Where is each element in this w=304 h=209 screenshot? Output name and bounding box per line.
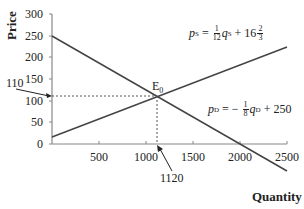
y-tick-label: 0 bbox=[37, 138, 43, 150]
y-tick-label: 200 bbox=[25, 51, 43, 63]
equilibrium-label: E0 bbox=[152, 80, 163, 97]
quantity-marker-label: 1120 bbox=[160, 172, 184, 184]
y-axis-title: Price bbox=[4, 11, 20, 40]
price-marker-label: 110 bbox=[6, 77, 24, 89]
x-tick-label: 500 bbox=[90, 151, 108, 163]
x-tick-label: 1500 bbox=[181, 151, 205, 163]
y-tick-label: 100 bbox=[25, 95, 43, 107]
y-tick-label: 300 bbox=[25, 8, 43, 20]
y-tick-label: 50 bbox=[31, 116, 43, 128]
x-tick-label: 2000 bbox=[228, 151, 252, 163]
quantity-arrow bbox=[160, 149, 172, 171]
x-tick-label: 2500 bbox=[275, 151, 299, 163]
demand-equation: pD = − 18 qD + 250 bbox=[208, 101, 291, 118]
supply-equation: pS = 112 qS + 16 23 bbox=[189, 25, 264, 42]
y-tick-label: 250 bbox=[25, 30, 43, 42]
y-tick-label: 150 bbox=[25, 73, 43, 85]
x-axis-title: Quantity bbox=[252, 189, 302, 205]
supply-curve bbox=[52, 47, 287, 137]
x-tick-label: 1000 bbox=[134, 151, 158, 163]
